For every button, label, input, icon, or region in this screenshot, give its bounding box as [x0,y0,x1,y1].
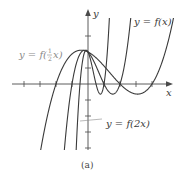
y-axis-arrow-icon [85,9,91,16]
x-axis-label: x [166,87,172,98]
y-axis-label: y [92,8,99,19]
svg-text:2: 2 [48,55,52,62]
svg-text:x): x) [53,49,63,60]
function-transform-diagram: y x y = f(x) y = f(2x) y = f( 1 2 x) (a) [0,0,184,180]
label-f-x: y = f(x) [133,16,172,27]
svg-text:y = f(: y = f( [18,49,48,60]
curve-f-2x- [76,5,110,160]
label-f-2x: y = f(2x) [105,118,150,129]
x-axis-arrow-icon [166,81,173,87]
label-f-half-x: y = f( 1 2 x) [18,47,63,62]
label-leader-line [80,119,102,121]
svg-text:1: 1 [48,47,52,54]
figure-caption: (a) [81,160,93,170]
